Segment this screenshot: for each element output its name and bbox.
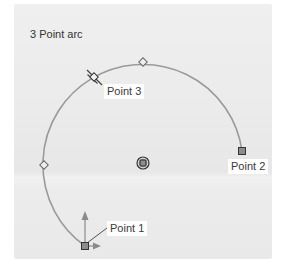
point2-handle[interactable] [239,148,246,155]
midpoint-diamond-icon[interactable] [40,161,48,169]
point1-label: Point 1 [107,221,147,236]
point1-leader-line [87,228,107,243]
point3-handle[interactable] [87,70,102,85]
center-point-icon[interactable] [137,157,149,169]
point3-label: Point 3 [104,84,144,99]
diagram-title: 3 Point arc [30,28,83,40]
point1-handle[interactable] [82,243,89,250]
point2-label: Point 2 [228,159,268,174]
